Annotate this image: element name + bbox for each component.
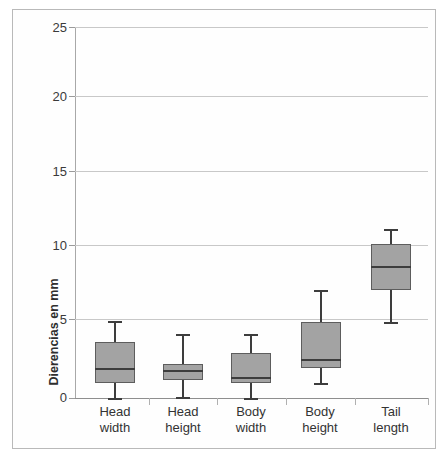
x-label-head-height-line2: height bbox=[148, 420, 218, 436]
whisker-lower bbox=[320, 368, 322, 383]
whisker-upper bbox=[114, 321, 116, 342]
y-tick-label-15: 15 bbox=[37, 165, 67, 178]
median-line bbox=[301, 359, 341, 361]
whisker-lower bbox=[114, 383, 116, 398]
x-label-tail-length: Tail length bbox=[356, 404, 426, 436]
median-line bbox=[163, 370, 203, 372]
median-line bbox=[95, 368, 135, 370]
median-line bbox=[371, 266, 411, 268]
gridline-15 bbox=[75, 171, 428, 172]
box-iqr bbox=[163, 364, 203, 380]
whisker-upper bbox=[250, 334, 252, 353]
plot-area bbox=[75, 27, 428, 398]
whisker-lower bbox=[250, 383, 252, 398]
y-tick-label-20: 20 bbox=[37, 90, 67, 103]
x-label-tail-length-line1: Tail bbox=[356, 404, 426, 420]
whisker-lower bbox=[390, 290, 392, 323]
chart-screenshot: Dierencias en mm 25 20 15 10 5 0 Head wi… bbox=[0, 0, 448, 463]
whisker-upper bbox=[390, 229, 392, 244]
whisker-cap-max bbox=[108, 321, 122, 323]
median-line bbox=[231, 377, 271, 379]
whisker-cap-max bbox=[244, 334, 258, 336]
gridline-25 bbox=[75, 27, 428, 28]
box-iqr bbox=[95, 342, 135, 384]
y-tick-label-25: 25 bbox=[37, 21, 67, 34]
x-label-body-width-line2: width bbox=[216, 420, 286, 436]
x-label-head-height-line1: Head bbox=[148, 404, 218, 420]
x-label-tail-length-line2: length bbox=[356, 420, 426, 436]
x-label-body-width: Body width bbox=[216, 404, 286, 436]
whisker-cap-max bbox=[314, 290, 328, 292]
x-label-body-width-line1: Body bbox=[216, 404, 286, 420]
whisker-cap-min bbox=[314, 383, 328, 385]
x-label-head-width-line2: width bbox=[80, 420, 150, 436]
whisker-cap-min bbox=[176, 397, 190, 399]
gridline-5 bbox=[75, 319, 428, 320]
x-label-head-width-line1: Head bbox=[80, 404, 150, 420]
whisker-cap-min bbox=[108, 398, 122, 400]
y-tick-label-10: 10 bbox=[37, 239, 67, 252]
y-axis-tick-labels: 25 20 15 10 5 0 bbox=[33, 0, 67, 463]
x-label-head-width: Head width bbox=[80, 404, 150, 436]
x-label-body-height-line1: Body bbox=[285, 404, 355, 420]
y-tick-label-0: 0 bbox=[37, 391, 67, 404]
whisker-cap-max bbox=[384, 229, 398, 231]
whisker-upper bbox=[182, 334, 184, 364]
x-label-head-height: Head height bbox=[148, 404, 218, 436]
x-category-separator-5 bbox=[428, 398, 429, 405]
whisker-cap-max bbox=[176, 334, 190, 336]
whisker-cap-min bbox=[384, 322, 398, 324]
box-iqr bbox=[301, 322, 341, 368]
y-tick-label-5: 5 bbox=[37, 313, 67, 326]
x-label-body-height: Body height bbox=[285, 404, 355, 436]
whisker-cap-min bbox=[244, 398, 258, 400]
whisker-lower bbox=[182, 380, 184, 396]
gridline-20 bbox=[75, 96, 428, 97]
whisker-upper bbox=[320, 290, 322, 323]
x-label-body-height-line2: height bbox=[285, 420, 355, 436]
